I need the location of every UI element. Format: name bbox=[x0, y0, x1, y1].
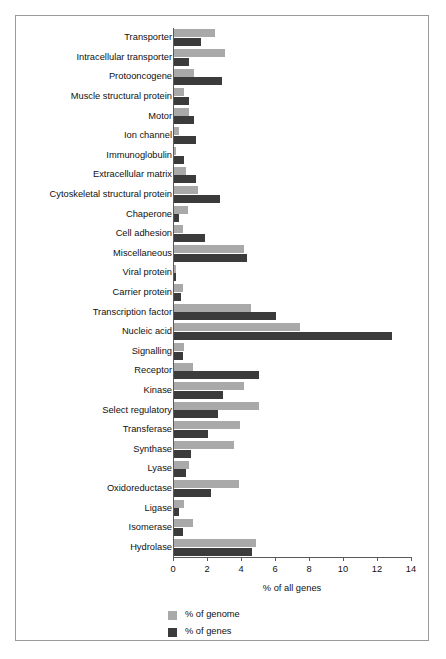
bar-genes bbox=[174, 450, 191, 458]
bars-wrap bbox=[173, 67, 411, 87]
category-label: Cell adhesion bbox=[2, 228, 172, 238]
bars-wrap bbox=[173, 244, 411, 264]
bar-genome bbox=[174, 461, 189, 469]
category-label: Select regulatory bbox=[2, 405, 172, 415]
category-label: Transcription factor bbox=[2, 307, 172, 317]
category-label: Cytoskeletal structural protein bbox=[2, 189, 172, 199]
bar-genome bbox=[174, 304, 251, 312]
bar-group: Isomerase bbox=[16, 518, 430, 538]
bars-wrap bbox=[173, 106, 411, 126]
bar-genome bbox=[174, 343, 184, 351]
bar-group: Hydrolase bbox=[16, 537, 430, 557]
category-label: Muscle structural protein bbox=[2, 91, 172, 101]
bar-genome bbox=[174, 441, 234, 449]
legend-label-genome: % of genome bbox=[185, 609, 240, 619]
bars-wrap bbox=[173, 537, 411, 557]
bars-wrap bbox=[173, 479, 411, 499]
bar-group: Ion channel bbox=[16, 126, 430, 146]
bar-genes bbox=[174, 410, 218, 418]
bar-genes bbox=[174, 234, 205, 242]
bar-group: Cell adhesion bbox=[16, 224, 430, 244]
x-axis-tick bbox=[173, 557, 174, 561]
bar-genes bbox=[174, 469, 186, 477]
bar-genome bbox=[174, 69, 194, 77]
x-axis-tick-label: 4 bbox=[226, 564, 256, 574]
bar-group: Muscle structural protein bbox=[16, 87, 430, 107]
bar-group: Immunoglobulin bbox=[16, 146, 430, 166]
x-axis-tick bbox=[241, 557, 242, 561]
bar-genes bbox=[174, 391, 223, 399]
bar-group: Receptor bbox=[16, 361, 430, 381]
bar-group: Transcription factor bbox=[16, 302, 430, 322]
bar-genome bbox=[174, 539, 256, 547]
bar-genome bbox=[174, 265, 176, 273]
bars-wrap bbox=[173, 400, 411, 420]
bar-genome bbox=[174, 363, 193, 371]
category-label: Hydrolase bbox=[2, 542, 172, 552]
category-label: Synthase bbox=[2, 444, 172, 454]
bar-group: Ligase bbox=[16, 498, 430, 518]
bar-genes bbox=[174, 38, 201, 46]
legend-label-genes: % of genes bbox=[185, 626, 232, 636]
x-axis-tick-label: 10 bbox=[328, 564, 358, 574]
bar-group: Extracellular matrix bbox=[16, 165, 430, 185]
bar-genes bbox=[174, 293, 181, 301]
bar-genome bbox=[174, 88, 184, 96]
bar-genes bbox=[174, 116, 194, 124]
bars-wrap bbox=[173, 87, 411, 107]
bar-genome bbox=[174, 480, 239, 488]
bar-group: Protooncogene bbox=[16, 67, 430, 87]
bar-group: Motor bbox=[16, 106, 430, 126]
category-label: Isomerase bbox=[2, 522, 172, 532]
bar-chart-plot-area: 02468101214 TransporterIntracellular tra… bbox=[16, 16, 430, 642]
category-label: Ligase bbox=[2, 503, 172, 513]
bar-group: Kinase bbox=[16, 381, 430, 401]
bar-genes bbox=[174, 548, 252, 556]
legend-swatch-genes bbox=[168, 628, 177, 637]
bars-wrap bbox=[173, 420, 411, 440]
bars-wrap bbox=[173, 322, 411, 342]
bar-group: Synthase bbox=[16, 439, 430, 459]
bar-genes bbox=[174, 77, 222, 85]
bar-genome bbox=[174, 108, 189, 116]
bars-wrap bbox=[173, 518, 411, 538]
bar-genome bbox=[174, 402, 259, 410]
category-label: Transferase bbox=[2, 424, 172, 434]
x-axis-tick bbox=[309, 557, 310, 561]
x-axis-tick bbox=[377, 557, 378, 561]
bars-wrap bbox=[173, 224, 411, 244]
category-label: Viral protein bbox=[2, 267, 172, 277]
bar-genome bbox=[174, 284, 183, 292]
bars-wrap bbox=[173, 146, 411, 166]
bars-wrap bbox=[173, 165, 411, 185]
bar-group: Oxidoreductase bbox=[16, 479, 430, 499]
bars-wrap bbox=[173, 283, 411, 303]
bar-group: Nucleic acid bbox=[16, 322, 430, 342]
category-label: Nucleic acid bbox=[2, 326, 172, 336]
x-axis-tick-label: 8 bbox=[294, 564, 324, 574]
x-axis-tick-label: 14 bbox=[396, 564, 426, 574]
category-label: Kinase bbox=[2, 385, 172, 395]
bar-genes bbox=[174, 508, 179, 516]
category-label: Lyase bbox=[2, 463, 172, 473]
bar-group: Intracellular transporter bbox=[16, 48, 430, 68]
bar-group: Chaperone bbox=[16, 204, 430, 224]
bar-genome bbox=[174, 500, 184, 508]
bars-wrap bbox=[173, 48, 411, 68]
bar-genome bbox=[174, 323, 300, 331]
bars-wrap bbox=[173, 498, 411, 518]
bar-genes bbox=[174, 58, 189, 66]
bar-genome bbox=[174, 167, 186, 175]
bar-genome bbox=[174, 421, 240, 429]
category-label: Signalling bbox=[2, 346, 172, 356]
bar-group: Transporter bbox=[16, 28, 430, 48]
bar-genes bbox=[174, 352, 183, 360]
category-label: Receptor bbox=[2, 365, 172, 375]
x-axis-tick-label: 2 bbox=[192, 564, 222, 574]
bar-group: Miscellaneous bbox=[16, 244, 430, 264]
category-label: Intracellular transporter bbox=[2, 52, 172, 62]
bars-wrap bbox=[173, 341, 411, 361]
x-axis-tick bbox=[207, 557, 208, 561]
bar-genes bbox=[174, 312, 276, 320]
bar-genes bbox=[174, 254, 247, 262]
